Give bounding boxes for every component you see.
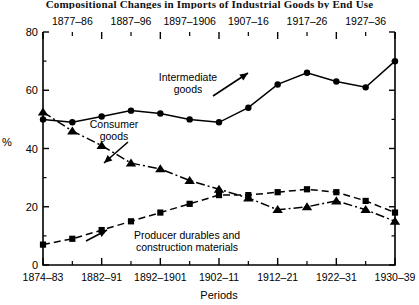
series-annotation: Consumergoods	[90, 119, 138, 142]
data-point-square	[333, 189, 339, 195]
data-point-square	[275, 189, 281, 195]
data-point-circle	[128, 107, 134, 113]
x-tick-label-top: 1907–16	[228, 15, 269, 27]
data-point-triangle	[331, 196, 341, 204]
data-point-square	[304, 186, 310, 192]
y-tick-label: 40	[26, 143, 38, 155]
series-annotation: Producer durables andconstruction materi…	[134, 230, 240, 253]
annotation-arrow-intermediate-head	[239, 73, 248, 80]
data-point-square	[245, 192, 251, 198]
data-point-circle	[216, 119, 222, 125]
series-annotation-line1: Consumer	[90, 119, 138, 131]
x-tick-label-top: 1877–86	[52, 15, 93, 27]
y-tick-label: 60	[26, 84, 38, 96]
data-point-circle	[40, 116, 46, 122]
data-point-triangle	[96, 141, 106, 149]
data-point-square	[363, 198, 369, 204]
data-point-circle	[245, 105, 251, 111]
series-annotation-line1: Producer durables and	[134, 230, 240, 242]
data-point-square	[69, 236, 75, 242]
data-point-circle	[186, 116, 192, 122]
x-tick-label-top: 1927–36	[345, 15, 386, 27]
x-tick-label-bottom: 1922–31	[316, 271, 357, 283]
data-point-square	[392, 209, 398, 215]
data-point-circle	[69, 119, 75, 125]
y-tick-label: 0	[32, 259, 38, 271]
data-point-circle	[362, 84, 368, 90]
series-annotation-line1: Intermediate	[159, 72, 217, 84]
x-axis-title: Periods	[200, 289, 237, 301]
y-tick-label: 80	[26, 26, 38, 38]
data-point-circle	[274, 81, 280, 87]
data-point-square	[128, 218, 134, 224]
data-point-circle	[392, 58, 398, 64]
chart-figure: Compositional Changes in Imports of Indu…	[0, 0, 419, 305]
x-tick-label-bottom: 1892–1901	[134, 271, 187, 283]
x-tick-label-bottom: 1882–91	[81, 271, 122, 283]
data-point-triangle	[390, 217, 400, 225]
y-tick-label: 20	[26, 201, 38, 213]
x-tick-label-top: 1897–1906	[163, 15, 216, 27]
x-tick-label-bottom: 1912–21	[257, 271, 298, 283]
data-point-square	[40, 242, 46, 248]
series-annotation-line2: goods	[159, 84, 217, 96]
data-point-triangle	[67, 126, 77, 134]
x-tick-label-top: 1917–26	[287, 15, 328, 27]
x-tick-label-bottom: 1930–39	[375, 271, 416, 283]
data-point-square	[216, 192, 222, 198]
data-point-square	[157, 209, 163, 215]
series-annotation: Intermediategoods	[159, 72, 217, 95]
data-point-circle	[304, 70, 310, 76]
data-point-triangle	[38, 107, 48, 115]
data-point-triangle	[155, 164, 165, 172]
data-point-triangle	[126, 158, 136, 166]
x-tick-label-bottom: 1902–11	[199, 271, 239, 283]
y-axis-title: %	[2, 136, 12, 148]
series-annotation-line2: goods	[90, 131, 138, 143]
data-point-circle	[333, 78, 339, 84]
data-point-triangle	[184, 176, 194, 184]
data-point-square	[187, 201, 193, 207]
chart-plot-area	[0, 0, 419, 305]
data-point-circle	[157, 110, 163, 116]
series-annotation-line2: construction materials	[134, 242, 240, 254]
x-tick-label-bottom: 1874–83	[23, 271, 64, 283]
x-tick-label-top: 1887–96	[111, 15, 152, 27]
